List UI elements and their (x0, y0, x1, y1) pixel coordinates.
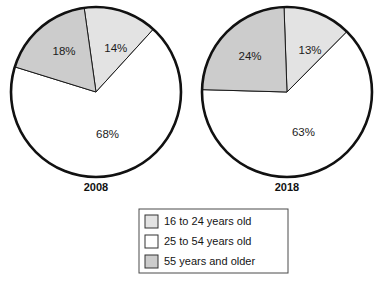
slice-label-2008-1: 14% (104, 42, 127, 54)
legend-label-2: 25 to 54 years old (164, 235, 251, 247)
chart-year-label-2018: 2018 (275, 181, 299, 193)
legend-label-3: 55 years and older (164, 255, 255, 267)
slice-label-2008-2: 68% (96, 128, 119, 140)
slice-label-2018-1: 13% (299, 44, 322, 56)
legend-swatch-2 (145, 235, 158, 248)
slice-label-2008-3: 18% (53, 45, 76, 57)
legend-swatch-1 (145, 215, 158, 228)
pie-chart-figure: 14%68%18%200813%63%24%2018 16 to 24 year… (0, 0, 389, 287)
slice-label-2018-3: 24% (239, 50, 262, 62)
chart-legend: 16 to 24 years old25 to 54 years old55 y… (139, 209, 288, 273)
legend-label-1: 16 to 24 years old (164, 215, 251, 227)
chart-year-label-2008: 2008 (84, 181, 108, 193)
legend-swatch-3 (145, 255, 158, 268)
slice-label-2018-2: 63% (292, 126, 315, 138)
